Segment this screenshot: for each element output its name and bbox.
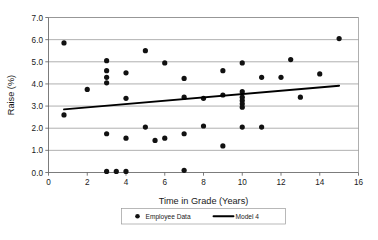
chart-legend: Employee Data Model 4: [122, 209, 286, 225]
x-tick-label: 8: [201, 178, 206, 187]
x-tick-label: 12: [276, 178, 286, 187]
data-point: [182, 131, 187, 136]
y-tick-label: 0.0: [32, 169, 44, 178]
data-point: [104, 58, 109, 63]
data-point: [104, 75, 109, 80]
data-points-series-employee-data: [61, 36, 341, 174]
data-point: [201, 123, 206, 128]
data-point: [337, 36, 342, 41]
data-point: [182, 76, 187, 81]
data-point: [259, 75, 264, 80]
x-tick-label: 10: [238, 178, 248, 187]
y-axis-ticks: 0.01.02.03.04.05.06.07.0: [32, 14, 49, 178]
y-tick-label: 7.0: [32, 14, 44, 23]
legend-marker-employee-data: [135, 214, 140, 219]
data-point: [143, 125, 148, 130]
data-point: [298, 95, 303, 100]
data-point: [220, 143, 225, 148]
y-tick-label: 4.0: [32, 80, 44, 89]
data-point: [104, 169, 109, 174]
data-point: [317, 71, 322, 76]
data-point: [123, 96, 128, 101]
data-point: [61, 40, 66, 45]
x-tick-label: 0: [46, 178, 51, 187]
x-tick-label: 6: [162, 178, 167, 187]
x-tick-label: 14: [315, 178, 325, 187]
y-tick-label: 5.0: [32, 58, 44, 67]
y-tick-label: 6.0: [32, 36, 44, 45]
data-point: [123, 70, 128, 75]
data-point: [85, 87, 90, 92]
data-point: [152, 138, 157, 143]
y-tick-label: 2.0: [32, 124, 44, 133]
y-tick-label: 1.0: [32, 146, 44, 155]
chart-canvas: 0246810121416 0.01.02.03.04.05.06.07.0 R…: [0, 0, 378, 240]
data-point: [162, 60, 167, 65]
data-point: [114, 169, 119, 174]
data-point: [240, 125, 245, 130]
data-point: [123, 136, 128, 141]
scatter-chart: 0246810121416 0.01.02.03.04.05.06.07.0 R…: [0, 0, 378, 240]
y-axis-title: Raise (%): [6, 75, 16, 115]
data-point: [259, 125, 264, 130]
x-axis-ticks: 0246810121416: [46, 173, 363, 187]
x-axis-title: Time in Grade (Years): [159, 196, 249, 206]
data-point: [288, 57, 293, 62]
data-point: [61, 112, 66, 117]
data-point: [104, 68, 109, 73]
y-tick-label: 3.0: [32, 102, 44, 111]
data-point: [182, 168, 187, 173]
data-point: [240, 60, 245, 65]
x-tick-label: 2: [85, 178, 90, 187]
legend-label-employee-data: Employee Data: [146, 213, 191, 221]
data-point: [162, 136, 167, 141]
data-point: [104, 80, 109, 85]
data-point: [123, 169, 128, 174]
x-tick-label: 4: [124, 178, 129, 187]
data-point: [104, 131, 109, 136]
legend-label-model-4: Model 4: [236, 213, 260, 220]
plot-frame: [49, 18, 359, 173]
gridlines: [49, 18, 359, 151]
data-point: [143, 48, 148, 53]
data-point: [240, 105, 245, 110]
x-tick-label: 16: [354, 178, 364, 187]
data-point: [220, 68, 225, 73]
data-point: [278, 75, 283, 80]
